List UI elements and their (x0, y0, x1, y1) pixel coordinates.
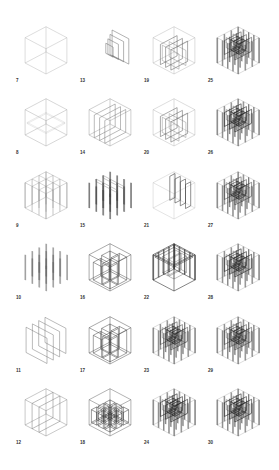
isometric-drawing (142, 90, 206, 162)
study-label: 22 (144, 295, 149, 300)
study-label: 11 (16, 368, 21, 373)
study-label: 9 (16, 223, 19, 228)
isometric-drawing (142, 163, 206, 235)
isometric-drawing (206, 235, 270, 307)
isometric-drawing (142, 18, 206, 90)
study-label: 30 (208, 440, 213, 445)
study-label: 25 (208, 78, 213, 83)
study-label: 26 (208, 150, 213, 155)
study-15: 15 (78, 163, 142, 235)
isometric-drawing (14, 380, 78, 452)
study-18: 18 (78, 380, 142, 452)
study-label: 13 (80, 78, 85, 83)
study-27: 27 (206, 163, 270, 235)
isometric-drawing (14, 308, 78, 380)
study-label: 10 (16, 295, 21, 300)
isometric-drawing (206, 90, 270, 162)
study-label: 16 (80, 295, 85, 300)
study-9: 9 (14, 163, 78, 235)
study-label: 23 (144, 368, 149, 373)
study-grid: 7891011121314151617181920212223242526272… (0, 0, 279, 470)
isometric-drawing (78, 163, 142, 235)
study-label: 15 (80, 223, 85, 228)
study-label: 24 (144, 440, 149, 445)
isometric-drawing (78, 90, 142, 162)
study-label: 20 (144, 150, 149, 155)
study-22: 22 (142, 235, 206, 307)
study-25: 25 (206, 18, 270, 90)
study-28: 28 (206, 235, 270, 307)
study-24: 24 (142, 380, 206, 452)
isometric-drawing (78, 235, 142, 307)
study-label: 29 (208, 368, 213, 373)
study-29: 29 (206, 308, 270, 380)
isometric-drawing (78, 308, 142, 380)
study-17: 17 (78, 308, 142, 380)
study-30: 30 (206, 380, 270, 452)
isometric-drawing (78, 380, 142, 452)
isometric-drawing (14, 18, 78, 90)
study-label: 21 (144, 223, 149, 228)
study-23: 23 (142, 308, 206, 380)
isometric-drawing (206, 18, 270, 90)
study-label: 19 (144, 78, 149, 83)
study-13: 13 (78, 18, 142, 90)
study-label: 18 (80, 440, 85, 445)
study-19: 19 (142, 18, 206, 90)
study-7: 7 (14, 18, 78, 90)
study-8: 8 (14, 90, 78, 162)
study-16: 16 (78, 235, 142, 307)
study-14: 14 (78, 90, 142, 162)
study-label: 14 (80, 150, 85, 155)
study-26: 26 (206, 90, 270, 162)
study-label: 7 (16, 78, 19, 83)
study-label: 27 (208, 223, 213, 228)
isometric-drawing (14, 163, 78, 235)
study-20: 20 (142, 90, 206, 162)
study-12: 12 (14, 380, 78, 452)
study-label: 17 (80, 368, 85, 373)
study-label: 28 (208, 295, 213, 300)
study-11: 11 (14, 308, 78, 380)
isometric-drawing (142, 235, 206, 307)
isometric-drawing (206, 308, 270, 380)
study-label: 8 (16, 150, 19, 155)
isometric-drawing (142, 380, 206, 452)
study-21: 21 (142, 163, 206, 235)
isometric-drawing (142, 308, 206, 380)
study-label: 12 (16, 440, 21, 445)
isometric-drawing (206, 163, 270, 235)
isometric-drawing (206, 380, 270, 452)
study-10: 10 (14, 235, 78, 307)
isometric-drawing (78, 18, 142, 90)
isometric-drawing (14, 235, 78, 307)
isometric-drawing (14, 90, 78, 162)
